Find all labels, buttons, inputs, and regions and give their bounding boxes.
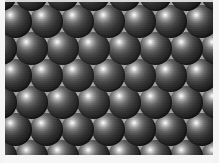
sphere-field [5,2,213,155]
sphere-array-image [0,0,219,163]
frame-band-top [0,0,219,2]
frame-band-left [0,0,5,163]
frame-band-right [213,0,219,163]
caption-strip [5,155,213,163]
